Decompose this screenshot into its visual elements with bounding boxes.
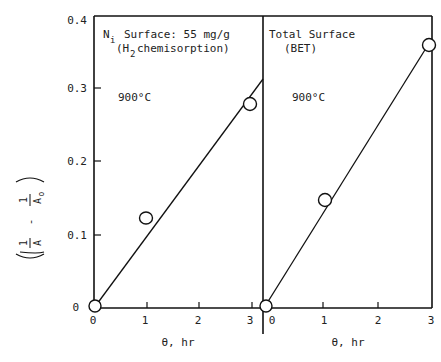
left-title-line2-sub: 2 <box>130 49 135 59</box>
left-paren <box>20 252 44 253</box>
y-tick-label: 0.3 <box>67 82 87 95</box>
ni-subscript: i <box>110 35 115 45</box>
y-tick-label: 0 <box>72 301 79 314</box>
x-tick-label: 0 <box>269 314 276 327</box>
left-panel-title: N i Surface: 55 mg/g (H 2 chemisorption) <box>103 28 230 59</box>
frac1-den: A <box>32 240 43 246</box>
data-point <box>423 39 436 52</box>
x-tick-label: 2 <box>375 314 382 327</box>
frac2-den: A <box>32 198 43 204</box>
left-fit-line <box>94 79 263 308</box>
y-tick-label: 0.4 <box>67 14 87 27</box>
x-ticks-left <box>147 302 252 308</box>
data-point <box>89 300 101 312</box>
y-tick-label: 0.1 <box>67 229 87 242</box>
x-tick-label: 3 <box>247 314 254 327</box>
frac1-num: 1 <box>18 240 29 246</box>
data-point <box>140 212 153 224</box>
x-tick-label: 3 <box>428 314 435 327</box>
x-axis-label-left: θ, hr <box>161 336 194 349</box>
right-title-line2: (BET) <box>284 42 317 55</box>
y-ticks <box>94 88 101 235</box>
right-title-line1: Total Surface <box>269 28 355 41</box>
frac2-den-sub: o <box>37 191 46 196</box>
chart-canvas: 0 0.1 0.2 0.3 0.4 0 1 2 3 0 1 2 3 θ, hr … <box>0 0 441 362</box>
y-tick-label: 0.2 <box>67 155 87 168</box>
x-tick-label: 1 <box>321 314 328 327</box>
y-tick-labels: 0 0.1 0.2 0.3 0.4 <box>67 14 87 314</box>
frac2-num: 1 <box>18 197 29 203</box>
x-tick-label: 0 <box>90 314 97 327</box>
data-point <box>260 300 272 312</box>
x-tick-labels-left: 0 1 2 3 <box>90 314 254 327</box>
x-ticks-right <box>323 302 378 308</box>
right-fit-line <box>264 45 428 308</box>
plot-frame <box>94 16 432 334</box>
data-point <box>319 194 332 207</box>
left-title-line1: Surface: 55 mg/g <box>124 28 230 41</box>
svg-text:-: - <box>24 219 37 226</box>
x-tick-labels-right: 0 1 2 3 <box>269 314 435 327</box>
left-temperature-annotation: 900°C <box>118 91 151 104</box>
right-paren <box>16 178 44 182</box>
y-axis-label: 1 A - 1 A o <box>16 178 46 258</box>
data-point <box>244 98 257 111</box>
ni-symbol: N <box>103 28 110 41</box>
x-tick-label: 1 <box>142 314 149 327</box>
left-title-line2-post: chemisorption) <box>137 42 230 55</box>
left-paren-arc <box>16 254 44 258</box>
x-axis-label-right: θ, hr <box>331 336 364 349</box>
left-title-line2-pre: (H <box>116 42 129 55</box>
right-temperature-annotation: 900°C <box>292 91 325 104</box>
x-tick-label: 2 <box>195 314 202 327</box>
